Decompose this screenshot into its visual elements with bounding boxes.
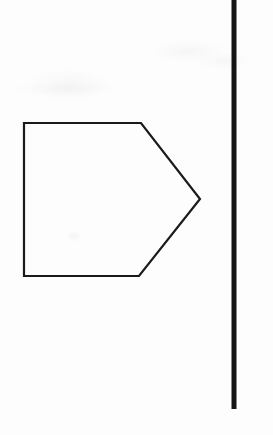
figure-drawing — [0, 0, 273, 435]
diagram-canvas — [0, 0, 273, 435]
home-plate-pentagon-shape — [24, 123, 200, 276]
